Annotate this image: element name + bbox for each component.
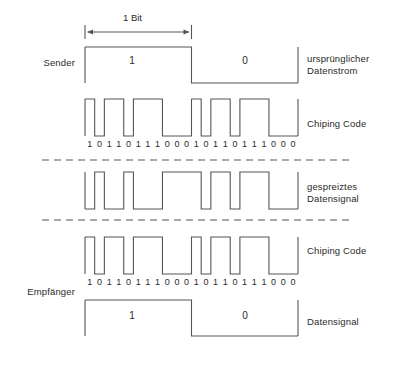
caption-chiping-code-bottom: Chiping Code — [307, 245, 366, 257]
chip-bit-top-digit: 0 — [201, 139, 211, 149]
waveform-chip-bottom — [85, 237, 298, 274]
chip-bit-bottom-digit: 1 — [211, 277, 221, 287]
chip-bit-top-digit: 0 — [278, 139, 288, 149]
chip-bit-top-digit: 0 — [182, 139, 192, 149]
chip-bit-bottom-digit: 1 — [104, 277, 114, 287]
chip-bit-top-digit: 0 — [162, 139, 172, 149]
chip-bit-bottom-digit: 0 — [162, 277, 172, 287]
chip-bit-top-digit: 0 — [124, 139, 134, 149]
sender-data-bit-zero: 0 — [231, 55, 259, 66]
chip-bit-bottom-digit: 1 — [191, 277, 201, 287]
chip-bit-bottom-digit: 0 — [230, 277, 240, 287]
caption-spread-signal-line2: Datensignal — [307, 193, 359, 205]
chip-bits-row-bottom: 1011011100010110111000 — [85, 277, 298, 287]
chip-bit-bottom-digit: 1 — [85, 277, 95, 287]
chip-bit-top-digit: 0 — [269, 139, 279, 149]
chip-bit-top-digit: 1 — [211, 139, 221, 149]
caption-chiping-code-top: Chiping Code — [307, 118, 366, 130]
chip-bit-bottom-digit: 0 — [269, 277, 279, 287]
chip-bit-top-digit: 1 — [104, 139, 114, 149]
receiver-data-bit-one: 1 — [118, 310, 146, 321]
chip-bits-row-top: 1011011100010110111000 — [85, 139, 298, 149]
receiver-data-bit-zero: 0 — [231, 310, 259, 321]
chip-bit-bottom-digit: 0 — [172, 277, 182, 287]
chip-bit-top-digit: 1 — [143, 139, 153, 149]
chip-bit-top-digit: 1 — [240, 139, 250, 149]
waveform-sender-data — [85, 47, 298, 83]
one-bit-measure-label: 1 Bit — [123, 12, 142, 23]
one-bit-arrowhead-right — [184, 29, 190, 34]
row-label-empfaenger: Empfänger — [13, 286, 75, 298]
chip-bit-top-digit: 1 — [249, 139, 259, 149]
chip-bit-top-digit: 1 — [85, 139, 95, 149]
chip-bit-top-digit: 1 — [220, 139, 230, 149]
chip-bit-bottom-digit: 1 — [133, 277, 143, 287]
waveform-spread — [85, 172, 298, 209]
chip-bit-top-digit: 1 — [191, 139, 201, 149]
chip-bit-top-digit: 0 — [230, 139, 240, 149]
chip-bit-bottom-digit: 1 — [114, 277, 124, 287]
caption-data-signal: Datensignal — [307, 316, 359, 328]
caption-spread-signal-line1: gespreiztes — [307, 181, 357, 193]
chip-bit-bottom-digit: 0 — [288, 277, 298, 287]
chip-bit-bottom-digit: 1 — [259, 277, 269, 287]
one-bit-arrowhead-left — [87, 29, 93, 34]
chip-bit-top-digit: 0 — [288, 139, 298, 149]
chip-bit-bottom-digit: 0 — [182, 277, 192, 287]
chip-bit-top-digit: 1 — [114, 139, 124, 149]
chip-bit-bottom-digit: 1 — [249, 277, 259, 287]
chip-bit-top-digit: 1 — [259, 139, 269, 149]
chip-bit-top-digit: 0 — [95, 139, 105, 149]
chip-bit-bottom-digit: 1 — [240, 277, 250, 287]
chip-bit-bottom-digit: 1 — [143, 277, 153, 287]
dsss-diagram: 1 Bit Sender Empfänger 1 0 1 0 ursprüngl… — [0, 0, 398, 366]
caption-original-data-stream-line1: ursprünglicher — [307, 53, 369, 65]
chip-bit-bottom-digit: 0 — [95, 277, 105, 287]
chip-bit-top-digit: 1 — [133, 139, 143, 149]
chip-bit-bottom-digit: 0 — [201, 277, 211, 287]
row-label-sender: Sender — [25, 57, 75, 69]
waveform-chip-top — [85, 99, 298, 136]
chip-bit-bottom-digit: 1 — [220, 277, 230, 287]
chip-bit-bottom-digit: 1 — [153, 277, 163, 287]
chip-bit-bottom-digit: 0 — [278, 277, 288, 287]
waveform-receiver-data — [85, 300, 298, 336]
sender-data-bit-one: 1 — [118, 55, 146, 66]
chip-bit-top-digit: 0 — [172, 139, 182, 149]
chip-bit-bottom-digit: 0 — [124, 277, 134, 287]
caption-original-data-stream-line2: Datenstrom — [307, 65, 358, 77]
chip-bit-top-digit: 1 — [153, 139, 163, 149]
